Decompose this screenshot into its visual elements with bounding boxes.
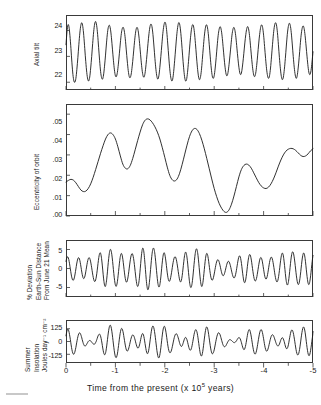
x-axis-tick: 0 — [58, 367, 74, 375]
caption-mark — [6, 393, 28, 395]
x-axis-tick: -4 — [256, 367, 272, 375]
panel-summer-insolation-curve — [0, 0, 321, 405]
x-axis-tick: -2 — [157, 367, 173, 375]
panel-summer-insolation: Summer Insolation Joules day⁻¹ cm⁻² 125 … — [0, 0, 321, 405]
x-axis-tick: -3 — [206, 367, 222, 375]
x-axis-tick: -1 — [107, 367, 123, 375]
x-axis-tick: -5 — [305, 367, 321, 375]
milankovitch-figure: Axial tilt 24 23 22 Eccentricity of orbi… — [0, 0, 321, 405]
x-axis-label: Time from the present (x 105 years) — [0, 383, 321, 393]
